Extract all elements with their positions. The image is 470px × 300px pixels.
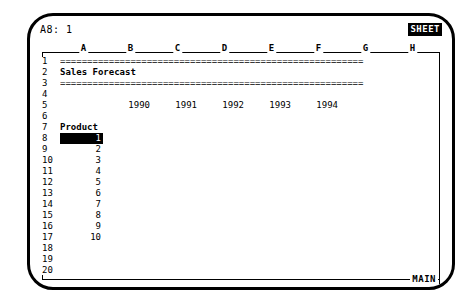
product-cell-2[interactable]: 2 (60, 144, 101, 155)
column-header-e[interactable]: E (267, 43, 276, 54)
year-header-1992[interactable]: 1992 (201, 100, 244, 111)
row-header-11[interactable]: 11 (42, 166, 57, 177)
column-header-g[interactable]: G (361, 43, 370, 54)
row-header-3[interactable]: 3 (42, 78, 57, 89)
column-header-c[interactable]: C (173, 43, 182, 54)
product-cell-6[interactable]: 6 (60, 188, 101, 199)
product-header-label: Product (60, 122, 98, 133)
worksheet[interactable]: ABCDEFGH 1234567891011121314151617181920… (42, 43, 440, 275)
row-header-7[interactable]: 7 (42, 122, 57, 133)
row-header-18[interactable]: 18 (42, 243, 57, 254)
row-header-14[interactable]: 14 (42, 199, 57, 210)
row-header-13[interactable]: 13 (42, 188, 57, 199)
row-header-17[interactable]: 17 (42, 232, 57, 243)
separator-row-3: ========================================… (60, 78, 432, 89)
year-header-1990[interactable]: 1990 (107, 100, 150, 111)
product-cell-9[interactable]: 9 (60, 221, 101, 232)
row-header-9[interactable]: 9 (42, 144, 57, 155)
footer-left-tick (42, 275, 43, 280)
footer-bar: MAIN (42, 275, 440, 289)
sheet-title: Sales Forecast (60, 67, 136, 78)
column-header-f[interactable]: F (314, 43, 323, 54)
separator-row-1: ========================================… (60, 56, 432, 67)
crt-bezel: A8: 1 SHEET ABCDEFGH 1234567891011121314… (27, 13, 455, 290)
row-header-6[interactable]: 6 (42, 111, 57, 122)
product-cell-7[interactable]: 7 (60, 199, 101, 210)
mode-badge: SHEET (408, 23, 442, 36)
row-header-19[interactable]: 19 (42, 254, 57, 265)
product-cell-5[interactable]: 5 (60, 177, 101, 188)
footer-right-tick (439, 275, 440, 280)
cell-reference-display: A8: 1 (40, 24, 73, 35)
column-header-row: ABCDEFGH (42, 43, 440, 56)
product-cell-8[interactable]: 8 (60, 210, 101, 221)
year-header-1993[interactable]: 1993 (248, 100, 291, 111)
row-header-1[interactable]: 1 (42, 56, 57, 67)
cell-area[interactable]: ========================================… (60, 56, 440, 275)
cell-reference-bar: A8: 1 SHEET (40, 24, 444, 40)
column-header-h[interactable]: H (408, 43, 417, 54)
row-header-16[interactable]: 16 (42, 221, 57, 232)
row-header-10[interactable]: 10 (42, 155, 57, 166)
column-header-rule (42, 52, 440, 53)
row-header-12[interactable]: 12 (42, 177, 57, 188)
column-header-d[interactable]: D (220, 43, 229, 54)
year-header-1991[interactable]: 1991 (154, 100, 197, 111)
column-header-a[interactable]: A (79, 43, 88, 54)
year-header-1994[interactable]: 1994 (295, 100, 338, 111)
row-header-2[interactable]: 2 (42, 67, 57, 78)
footer-rule (42, 279, 440, 280)
row-header-15[interactable]: 15 (42, 210, 57, 221)
row-header-8[interactable]: 8 (42, 133, 57, 144)
row-header-5[interactable]: 5 (42, 100, 57, 111)
selected-cell-a8[interactable]: 1 (60, 133, 103, 144)
product-cell-3[interactable]: 3 (60, 155, 101, 166)
row-header-4[interactable]: 4 (42, 89, 57, 100)
product-cell-10[interactable]: 10 (60, 232, 101, 243)
product-cell-4[interactable]: 4 (60, 166, 101, 177)
footer-mode-label: MAIN (410, 274, 438, 285)
column-header-b[interactable]: B (126, 43, 135, 54)
